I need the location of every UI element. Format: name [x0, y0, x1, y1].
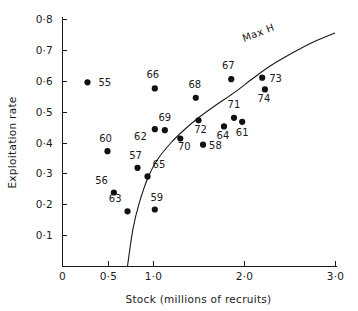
point-label-57: 57: [129, 150, 142, 161]
point-label-66: 66: [146, 69, 159, 80]
y-tick-label: 0·2: [36, 198, 53, 210]
point-label-64: 64: [217, 130, 230, 141]
point-label-59: 59: [150, 192, 163, 203]
point-label-60: 60: [99, 133, 112, 144]
y-tick-label: 0·3: [36, 167, 53, 179]
data-point-68: 68 (1.47, 0.545): [193, 95, 199, 101]
data-point-63: 63 (0.72, 0.177): [124, 208, 130, 214]
point-label-68: 68: [188, 79, 201, 90]
data-point-69: 69 (1.13, 0.44): [162, 127, 168, 133]
chart-annotations: Max H: [241, 22, 276, 44]
data-point-74: 74 (2.23, 0.572): [262, 86, 268, 92]
data-point-58: 58 (1.55, 0.393): [200, 142, 206, 148]
x-tick-label: 0: [59, 270, 66, 282]
point-label-70: 70: [178, 141, 191, 152]
data-point-67: 67 (1.86, 0.605): [228, 76, 234, 82]
x-tick-label: 2·0: [236, 270, 253, 282]
point-label-69: 69: [158, 112, 171, 123]
point-label-65: 65: [153, 159, 166, 170]
plot-area: 0·10·20·30·40·50·60·70·800·51·02·03·0 55…: [0, 0, 358, 311]
y-tick-label: 0·4: [36, 137, 53, 149]
x-tick-label: 0·5: [100, 270, 117, 282]
y-tick-label: 0·8: [36, 13, 53, 25]
data-point-labels: 5560566357655966626970687258646771617374: [95, 60, 282, 204]
point-label-55: 55: [98, 77, 111, 88]
point-label-73: 73: [269, 73, 282, 84]
y-axis-title: Exploitation rate: [6, 96, 18, 188]
point-label-67: 67: [222, 60, 235, 71]
point-label-61: 61: [236, 127, 249, 138]
point-label-71: 71: [228, 99, 241, 110]
point-label-62: 62: [134, 131, 147, 142]
data-point-61: 61 (1.98, 0.467): [239, 119, 245, 125]
data-point-60: 60 (0.5, 0.372): [104, 148, 110, 154]
data-point-65: 65 (0.94, 0.29): [144, 173, 150, 179]
scatter-chart: 0·10·20·30·40·50·60·70·800·51·02·03·0 55…: [0, 0, 358, 311]
data-point-59: 59 (1.02, 0.183): [152, 206, 158, 212]
data-point-57: 57 (0.83, 0.318): [134, 165, 140, 171]
point-label-56: 56: [95, 175, 108, 186]
y-tick-label: 0·7: [36, 44, 53, 56]
data-point-64: 64 (1.78, 0.452): [221, 123, 227, 129]
point-label-72: 72: [194, 124, 207, 135]
data-point-71: 71 (1.89, 0.48): [231, 115, 237, 121]
y-tick-label: 0·1: [36, 229, 53, 241]
point-label-74: 74: [258, 93, 271, 104]
data-point-66: 66 (1.02, 0.575): [152, 85, 158, 91]
x-axis-title: Stock (millions of recruits): [125, 293, 271, 305]
data-point-72: 72 (1.5, 0.472): [195, 117, 201, 123]
data-point-62: 62 (1.02, 0.443): [152, 126, 158, 132]
point-label-63: 63: [109, 193, 122, 204]
max-h-label: Max H: [241, 22, 276, 44]
data-point-73: 73 (2.2, 0.61): [259, 75, 265, 81]
x-tick-label: 1·0: [145, 270, 162, 282]
data-point-55: 55 (0.28, 0.595): [84, 79, 90, 85]
y-tick-label: 0·6: [36, 75, 53, 87]
y-tick-label: 0·5: [36, 106, 53, 118]
x-tick-label: 3·0: [327, 270, 344, 282]
